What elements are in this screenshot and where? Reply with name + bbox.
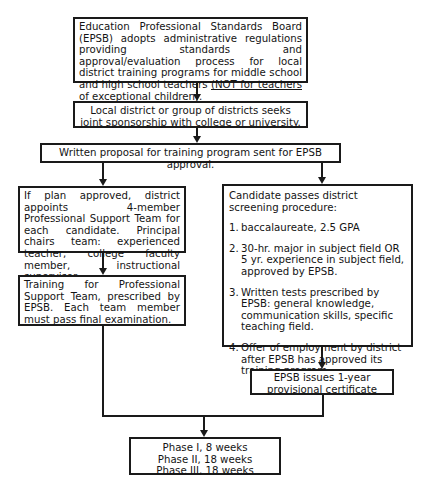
screening-list: 1.baccalaureate, 2.5 GPA 2.30-hr. major … — [229, 222, 406, 377]
edge-training-down — [102, 325, 104, 417]
node-text: Training for Professional Support Team, … — [24, 279, 180, 325]
edge-merge-horizontal — [102, 415, 324, 417]
phase-line: Phase II, 18 weeks — [135, 454, 275, 466]
node-text: If plan approved, district appoints 4-me… — [24, 190, 180, 282]
node-epsb-adopts-regulations: Education Professional Standards Board (… — [73, 17, 308, 83]
phase-line: Phase III, 18 weeks — [135, 465, 275, 477]
arrow-down-icon — [200, 430, 208, 437]
arrow-down-icon — [99, 179, 107, 186]
node-team-training: Training for Professional Support Team, … — [18, 275, 186, 326]
edge-certificate-down — [322, 394, 324, 417]
node-text: EPSB issues 1-year provisional certifica… — [267, 372, 377, 395]
screening-item: 2.30-hr. major in subject field OR 5 yr.… — [229, 243, 406, 278]
arrow-down-icon — [318, 177, 326, 184]
node-text: Local district or group of districts see… — [80, 105, 301, 128]
node-phases: Phase I, 8 weeks Phase II, 18 weeks Phas… — [129, 437, 281, 475]
arrow-down-icon — [193, 136, 201, 143]
screening-heading: Candidate passes district screening proc… — [229, 190, 406, 213]
node-joint-sponsorship: Local district or group of districts see… — [73, 101, 308, 128]
screening-item: 3.Written tests prescribed by EPSB: gene… — [229, 287, 406, 333]
edge-proposal-to-screening — [321, 162, 323, 177]
phase-line: Phase I, 8 weeks — [135, 442, 275, 454]
node-written-proposal: Written proposal for training program se… — [40, 143, 341, 163]
node-support-team: If plan approved, district appoints 4-me… — [18, 186, 186, 253]
node-provisional-certificate: EPSB issues 1-year provisional certifica… — [250, 369, 394, 395]
node-screening-procedure: Candidate passes district screening proc… — [222, 184, 413, 347]
edge-merge-to-phases — [203, 417, 205, 430]
screening-item: 1.baccalaureate, 2.5 GPA — [229, 222, 406, 234]
node-text: Written proposal for training program se… — [59, 147, 322, 170]
edge-proposal-to-team — [102, 162, 104, 179]
